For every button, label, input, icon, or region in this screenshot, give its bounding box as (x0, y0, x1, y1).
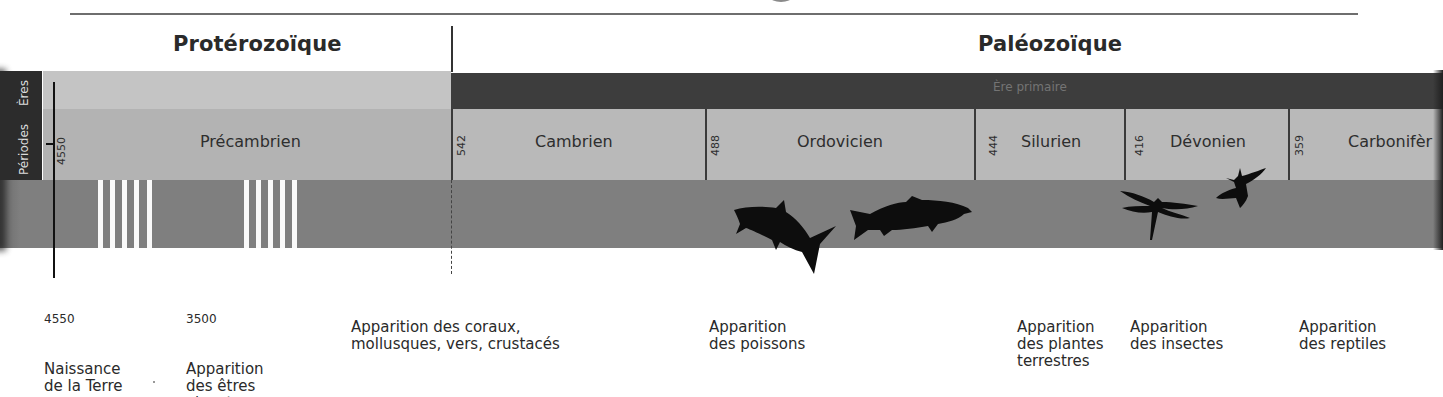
eon-label-proterozoic: Protérozoïque (173, 32, 342, 56)
marker-tick-4550 (46, 143, 54, 145)
insect-icon (1216, 166, 1270, 210)
period-devonien: Dévonien (1170, 132, 1246, 151)
event-desc: Apparition des êtres vivants (bactéries) (186, 361, 267, 397)
event-poissons: Apparition des poissons (709, 285, 805, 370)
sidebar-label-periodes: Périodes (17, 124, 31, 175)
marker-dashed-542 (451, 180, 452, 274)
eres-band-paleozoic (451, 73, 1443, 109)
period-silurien: Silurien (1021, 132, 1081, 151)
period-divider-416 (1124, 109, 1126, 180)
event-desc: Apparition des insectes (1130, 319, 1223, 353)
period-ordovicien: Ordovicien (797, 132, 883, 151)
period-cambrien: Cambrien (535, 132, 613, 151)
fish-icon (850, 196, 972, 242)
dragonfly-icon (1120, 188, 1200, 240)
sidebar-label-eres: Ères (17, 80, 31, 106)
period-divider-542 (451, 109, 453, 180)
period-divider-359 (1288, 109, 1290, 180)
event-date: 4550 (44, 312, 122, 326)
row-labels-sidebar: Ères Périodes (0, 71, 42, 180)
period-start-359: 359 (1293, 135, 1306, 156)
period-start-542: 542 (455, 135, 468, 156)
top-rule (70, 13, 1358, 15)
event-plantes-terrestres: Apparition des plantes terrestres (1017, 285, 1104, 387)
event-desc: Apparition des poissons (709, 319, 805, 353)
event-reptiles: Apparition des reptiles (1299, 285, 1386, 370)
event-desc: Naissance de la Terre (44, 361, 122, 395)
period-start-416: 416 (1133, 135, 1146, 156)
right-page-edge (1433, 70, 1443, 250)
event-desc: Apparition des coraux, mollusques, vers,… (351, 319, 560, 353)
eon-divider (451, 26, 453, 72)
event-etres-vivants: 3500 Apparition des êtres vivants (bacté… (186, 278, 267, 397)
shark-icon (730, 200, 842, 276)
period-divider-444 (974, 109, 976, 180)
event-desc: Apparition des plantes terrestres (1017, 319, 1104, 370)
period-divider-488 (705, 109, 707, 180)
event-naissance-terre: 4550 Naissance de la Terre (44, 278, 122, 397)
event-date: 3500 (186, 312, 267, 326)
event-desc: Apparition des reptiles (1299, 319, 1386, 353)
period-start-444: 444 (987, 135, 1000, 156)
cropped-heading-fragment (770, 0, 792, 2)
event-insectes: Apparition des insectes (1130, 285, 1223, 370)
event-coraux: Apparition des coraux, mollusques, vers,… (351, 285, 560, 370)
eres-band-proterozoic (43, 71, 451, 109)
period-carbonifere: Carbonifèr (1348, 132, 1432, 151)
stray-dot (153, 381, 155, 383)
period-precambrien: Précambrien (200, 132, 301, 151)
period-start-488: 488 (709, 135, 722, 156)
ere-label-primaire: Ère primaire (993, 80, 1067, 94)
period-start-4550: 4550 (55, 137, 68, 165)
marker-line-4550 (53, 82, 55, 278)
eon-label-paleozoic: Paléozoïque (978, 32, 1122, 56)
